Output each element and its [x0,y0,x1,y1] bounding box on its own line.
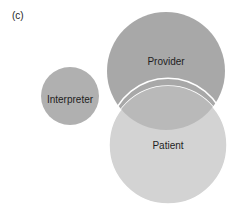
interpreter-label: Interpreter [47,94,94,105]
provider-label: Provider [147,56,185,67]
venn-svg: (c) Provider Patient Interpreter [0,0,235,213]
panel-label: (c) [12,10,24,21]
patient-label: Patient [152,140,183,151]
venn-diagram: (c) Provider Patient Interpreter [0,0,235,213]
